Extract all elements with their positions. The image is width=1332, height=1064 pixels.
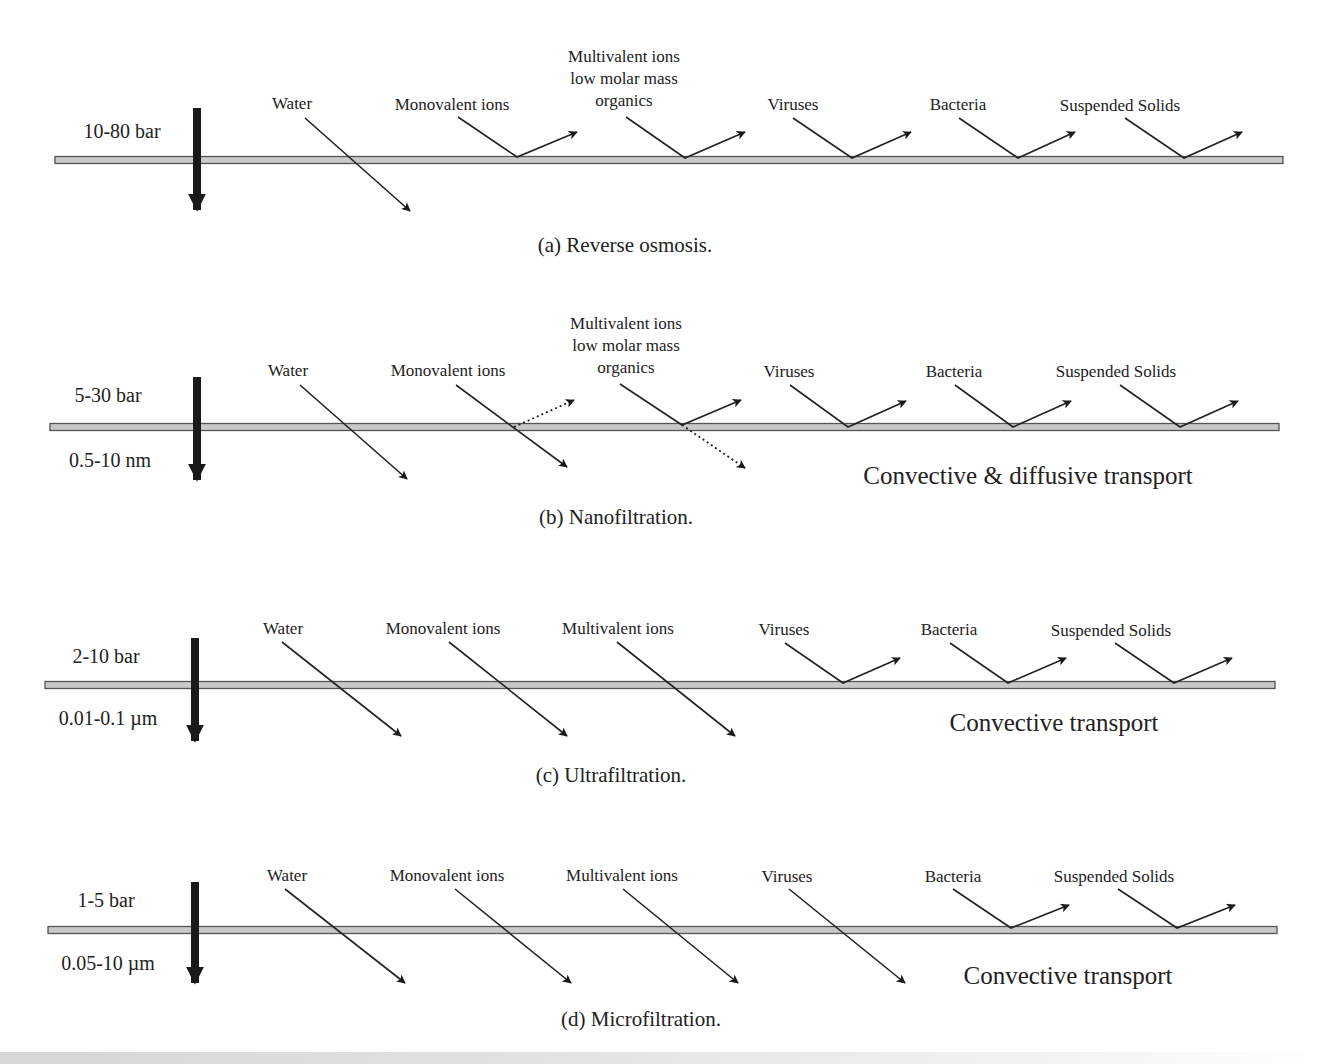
species-monovalent-ions: Monovalent ions [391,361,574,467]
species-label: Monovalent ions [395,95,510,114]
permeate-arrow-icon [305,118,410,211]
species-suspended-solids: Suspended Solids [1060,96,1242,158]
pressure-label: 2-10 bar [72,645,140,667]
species-label: Multivalent ions [568,47,680,66]
species-label: Suspended Solids [1056,362,1176,381]
permeate-arrow-icon [300,385,407,479]
species-label: Bacteria [921,620,978,639]
species-multivalent-ions: Multivalent ionslow molar massorganics [570,314,745,468]
species-bacteria: Bacteria [926,362,1071,427]
species-label: Monovalent ions [390,866,505,885]
rejection-arrow-icon [950,643,1066,683]
species-label: Bacteria [926,362,983,381]
rejection-arrow-icon [1120,385,1238,427]
rejection-arrow-icon [785,643,900,683]
species-bacteria: Bacteria [930,95,1075,158]
panel-d: 1-5 bar0.05-10 µmWaterMonovalent ionsMul… [48,866,1277,1031]
species-multivalent-ions: Multivalent ions [566,866,738,983]
membrane-bar [55,157,1283,164]
species-viruses: Viruses [764,362,906,427]
species-label: organics [595,91,652,110]
species-label: Suspended Solids [1054,867,1174,886]
species-monovalent-ions: Monovalent ions [390,866,571,983]
species-label: Water [263,619,303,638]
membrane-bar [48,927,1277,934]
pore-size-label: 0.5-10 nm [69,449,152,471]
pore-size-label: 0.01-0.1 µm [59,707,158,730]
species-label: organics [597,358,654,377]
species-water: Water [272,94,410,211]
species-label: Multivalent ions [562,619,674,638]
membrane-bar [45,682,1275,689]
pressure-label: 1-5 bar [77,889,135,911]
species-suspended-solids: Suspended Solids [1056,362,1238,427]
scan-artifact-strip [0,1052,1332,1064]
transport-mechanism-label: Convective transport [964,962,1173,989]
species-bacteria: Bacteria [925,867,1069,928]
species-label: Water [267,866,307,885]
permeate-arrow-icon [285,889,405,983]
species-label: Monovalent ions [391,361,506,380]
membrane-filtration-diagram: 10-80 barWaterMonovalent ionsMultivalent… [0,0,1332,1064]
species-label: Suspended Solids [1051,621,1171,640]
permeate-arrow-icon [455,889,571,983]
panel-a: 10-80 barWaterMonovalent ionsMultivalent… [55,47,1283,257]
species-water: Water [267,866,405,983]
species-viruses: Viruses [762,867,905,983]
species-monovalent-ions: Monovalent ions [395,95,577,157]
species-suspended-solids: Suspended Solids [1051,621,1232,683]
panel-c: 2-10 bar0.01-0.1 µmWaterMonovalent ionsM… [45,619,1275,787]
partial-permeation-arrow-icon [682,425,745,468]
species-multivalent-ions: Multivalent ions [562,619,735,736]
transport-mechanism-label: Convective & diffusive transport [863,462,1192,489]
species-label: Monovalent ions [386,619,501,638]
rejection-arrow-icon [620,384,741,425]
species-label: Viruses [762,867,813,886]
panel-caption: (c) Ultrafiltration. [536,763,686,787]
pressure-label: 10-80 bar [83,120,161,142]
rejection-arrow-icon [1115,643,1232,683]
species-label: Bacteria [930,95,987,114]
species-label: low molar mass [572,336,680,355]
species-label: Suspended Solids [1060,96,1180,115]
species-label: Bacteria [925,867,982,886]
rejection-arrow-icon [1118,889,1235,928]
rejection-arrow-icon [1125,118,1242,158]
rejection-arrow-icon [458,117,577,157]
permeate-arrow-icon [789,889,905,983]
species-viruses: Viruses [759,620,900,683]
species-label: Multivalent ions [566,866,678,885]
species-monovalent-ions: Monovalent ions [386,619,567,736]
rejection-arrow-icon [793,118,911,158]
pressure-label: 5-30 bar [74,384,142,406]
species-label: Water [268,361,308,380]
species-multivalent-ions: Multivalent ionslow molar massorganics [568,47,745,158]
panel-caption: (d) Microfiltration. [561,1007,721,1031]
species-viruses: Viruses [768,95,911,158]
species-water: Water [263,619,401,736]
species-label: low molar mass [570,69,678,88]
panel-b: 5-30 bar0.5-10 nmWaterMonovalent ionsMul… [50,314,1279,529]
panel-caption: (b) Nanofiltration. [539,505,693,529]
species-label: Viruses [764,362,815,381]
species-label: Viruses [759,620,810,639]
membrane-bar [50,424,1279,431]
species-label: Viruses [768,95,819,114]
species-suspended-solids: Suspended Solids [1054,867,1235,928]
rejection-arrow-icon [955,385,1071,427]
species-label: Multivalent ions [570,314,682,333]
rejection-arrow-icon [626,117,745,158]
permeate-arrow-icon [623,889,738,983]
rejection-arrow-icon [790,385,906,427]
pore-size-label: 0.05-10 µm [61,952,155,975]
species-label: Water [272,94,312,113]
rejection-arrow-icon [953,889,1069,928]
species-bacteria: Bacteria [921,620,1066,683]
panel-caption: (a) Reverse osmosis. [538,233,712,257]
species-water: Water [268,361,407,479]
transport-mechanism-label: Convective transport [950,709,1159,736]
rejection-arrow-icon [959,118,1075,158]
